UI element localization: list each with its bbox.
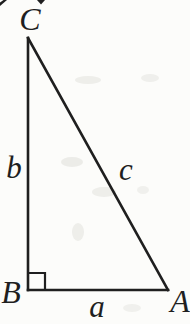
vertex-label-C: C bbox=[19, 1, 41, 37]
side-label-c: c bbox=[119, 152, 133, 187]
side-label-b: b bbox=[6, 150, 22, 185]
vertex-label-B: B bbox=[1, 274, 21, 310]
cropped-mark-left bbox=[0, 0, 7, 6]
right-angle-marker bbox=[28, 273, 45, 290]
vertex-label-A: A bbox=[168, 283, 190, 319]
triangle-figure: C B A b c a bbox=[0, 0, 190, 324]
scan-bleedthrough-smudges bbox=[61, 74, 159, 312]
triangle-canvas: C B A b c a bbox=[0, 0, 190, 324]
side-label-a: a bbox=[89, 289, 105, 324]
